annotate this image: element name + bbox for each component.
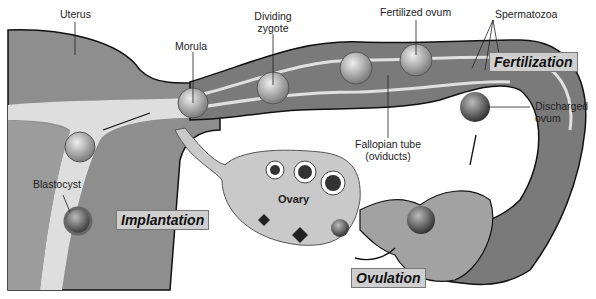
discharged-ovum-cell <box>460 92 490 122</box>
uterus-shape <box>8 30 220 290</box>
blastocyst-cell <box>65 208 91 234</box>
reproduction-diagram: Uterus Morula Dividing zygote Fertilized… <box>0 0 596 299</box>
uterus-label: Uterus <box>60 8 91 20</box>
morula-label: Morula <box>175 40 207 52</box>
blastocyst-label: Blastocyst <box>33 178 81 190</box>
two-cell-zygote <box>340 52 372 84</box>
transport-arrow <box>470 135 476 165</box>
ovulation-stage-box: Ovulation <box>351 268 426 288</box>
implantation-stage-box: Implantation <box>116 210 209 230</box>
fallopian-tube-label: Fallopian tube (oviducts) <box>348 138 428 162</box>
dividing-zygote-label: Dividing zygote <box>253 10 293 34</box>
ovulated-ovum-cell <box>407 206 435 234</box>
fertilization-stage-box: Fertilization <box>489 52 578 72</box>
spermatozoa-label: Spermatozoa <box>495 8 557 20</box>
fertilized-ovum-label: Fertilized ovum <box>380 6 451 18</box>
ovary-label: Ovary <box>278 193 309 205</box>
blastocyst-uterine-cell <box>65 132 95 162</box>
discharged-ovum-label: Discharged ovum <box>535 100 588 124</box>
anatomy-illustration <box>0 0 596 299</box>
